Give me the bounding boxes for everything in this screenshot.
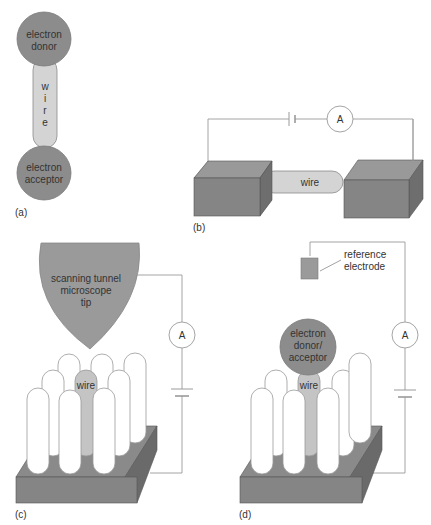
ref-text-2: electrode — [344, 261, 386, 272]
ammeter-label: A — [337, 114, 344, 125]
pillar — [251, 388, 273, 474]
panel-c: scanning tunnel microscope tip A wire (c… — [15, 243, 195, 520]
reference-electrode — [301, 258, 318, 279]
tip-text-1: scanning tunnel — [51, 273, 121, 284]
panel-label-c: (c) — [15, 509, 27, 520]
ammeter-label: A — [402, 330, 409, 341]
donor-text-2: donor — [31, 41, 57, 52]
pillar — [27, 388, 49, 474]
tip-text-3: tip — [81, 297, 92, 308]
pillar — [317, 388, 339, 474]
ref-text-1: reference — [344, 249, 387, 260]
wire-label: wire — [300, 177, 320, 188]
panel-b: A wire (b) — [193, 106, 423, 233]
panel-a: electron donor w i r e electron acceptor… — [15, 12, 71, 218]
pillar — [93, 388, 115, 474]
wire-letter: w — [40, 81, 49, 92]
electron-acceptor — [17, 146, 71, 200]
panel-d: reference electrode A wire electron dono… — [239, 242, 418, 520]
panel-label-d: (d) — [239, 509, 251, 520]
pillar — [59, 390, 81, 474]
donor-text-1: electron — [26, 29, 62, 40]
wire-letter: i — [44, 93, 46, 104]
acceptor-text-2: acceptor — [25, 174, 64, 185]
molecule-text-2: donor/ — [294, 340, 323, 351]
molecule-text-1: electron — [290, 328, 326, 339]
stm-tip — [39, 243, 139, 349]
panel-label-a: (a) — [15, 207, 27, 218]
ammeter-label: A — [179, 330, 186, 341]
molecule-text-3: acceptor — [289, 352, 328, 363]
figure: electron donor w i r e electron acceptor… — [0, 0, 431, 525]
pillar — [349, 353, 371, 443]
leader-line — [320, 260, 341, 271]
wire-label: wire — [299, 380, 319, 391]
wire-label: wire — [76, 380, 96, 391]
acceptor-text-1: electron — [26, 162, 62, 173]
circuit-wire — [137, 275, 182, 322]
pillar — [283, 390, 305, 474]
panel-label-b: (b) — [193, 222, 205, 233]
wire-letter: e — [42, 117, 48, 128]
tip-text-2: microscope — [60, 285, 112, 296]
